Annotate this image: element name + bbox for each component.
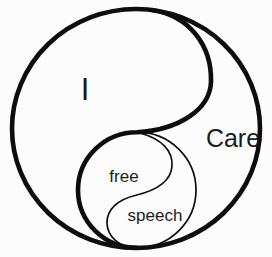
label-inner-top: free	[109, 167, 138, 186]
yin-yang-svg: I Care free speech	[0, 0, 272, 257]
inner-divider-curve	[107, 133, 172, 248]
yin-yang-diagram: I Care free speech	[0, 0, 272, 257]
label-outer-left: I	[81, 72, 90, 107]
label-inner-bottom: speech	[128, 206, 183, 225]
label-outer-right: Care	[206, 124, 260, 152]
